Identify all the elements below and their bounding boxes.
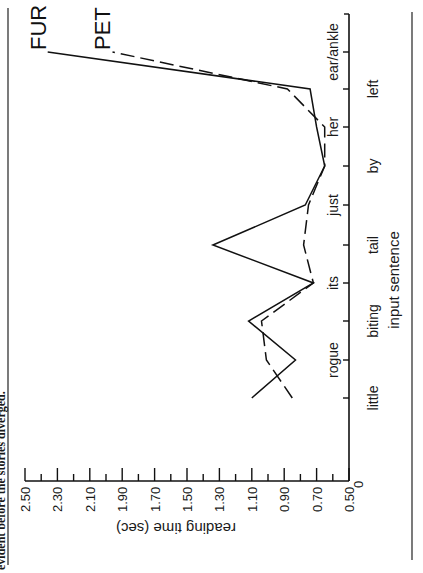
value-tick-label: 1.10 (245, 487, 260, 512)
series-label-fur: FUR (26, 5, 51, 50)
word-label: left (365, 80, 381, 99)
value-tick-label: 2.30 (50, 487, 65, 512)
value-tick-label: 2.50 (18, 487, 33, 512)
value-tick-label: 0.70 (310, 487, 325, 512)
series-lines: FURPET (26, 5, 325, 398)
word-label: rogue (325, 342, 341, 378)
axes: 0.500.700.901.101.301.501.701.902.102.30… (18, 14, 402, 537)
series-label-pet: PET (90, 7, 115, 50)
word-axis-title: input sentence (385, 231, 402, 329)
value-tick-label: 1.50 (180, 487, 195, 512)
reading-time-chart: evident before the stories diverged. 0.5… (0, 0, 423, 573)
word-label: biting (365, 304, 381, 337)
value-tick-label: 0.50 (342, 487, 357, 512)
series-line-fur (48, 52, 325, 398)
origin-label: 0 (351, 481, 366, 488)
value-tick-label: 0.90 (277, 487, 292, 512)
value-tick-label: 2.10 (83, 487, 98, 512)
value-tick-label: 1.70 (148, 487, 163, 512)
value-axis-title: reading time (sec) (116, 520, 236, 537)
word-label: her (325, 117, 341, 138)
series-line-pet (113, 52, 325, 398)
value-tick-label: 1.90 (115, 487, 130, 512)
word-label: its (325, 276, 341, 290)
figure-caption-fragment: evident before the stories diverged. (0, 391, 8, 570)
word-label: tail (365, 236, 381, 254)
word-label: by (365, 159, 381, 174)
value-tick-label: 1.30 (212, 487, 227, 512)
word-label: ear/ankle (325, 23, 341, 81)
word-label: just (325, 194, 341, 217)
word-label: little (365, 385, 381, 410)
